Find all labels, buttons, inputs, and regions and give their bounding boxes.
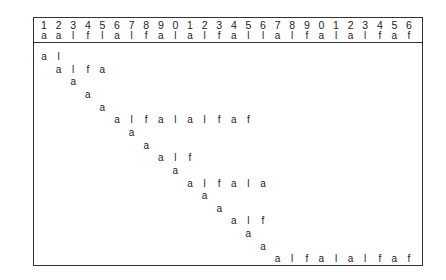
row-char: l — [126, 114, 138, 126]
row-char: a — [96, 64, 108, 76]
row-char: a — [169, 165, 181, 177]
row-char: f — [213, 114, 225, 126]
row-char: a — [272, 253, 284, 265]
row-char: a — [199, 190, 211, 202]
row-char: a — [228, 114, 240, 126]
alignment-table-frame — [33, 17, 423, 266]
row-char: f — [257, 215, 269, 227]
row-char: l — [286, 253, 298, 265]
row-char: a — [257, 178, 269, 190]
header-letter: l — [286, 30, 298, 42]
row-char: a — [155, 114, 167, 126]
header-letter: f — [82, 30, 94, 42]
row-char: l — [199, 178, 211, 190]
row-char: f — [374, 253, 386, 265]
row-char: a — [388, 253, 400, 265]
row-char: a — [96, 102, 108, 114]
header-letter: l — [359, 30, 371, 42]
header-letter: a — [228, 30, 240, 42]
row-char: a — [38, 51, 50, 63]
header-letter: f — [213, 30, 225, 42]
header-letter: a — [388, 30, 400, 42]
row-char: a — [213, 203, 225, 215]
row-char: a — [257, 241, 269, 253]
row-char: l — [242, 215, 254, 227]
header-letter: l — [96, 30, 108, 42]
header-letter: f — [301, 30, 313, 42]
header-divider — [33, 42, 423, 43]
header-letter: l — [242, 30, 254, 42]
row-char: a — [184, 114, 196, 126]
header-letter: l — [67, 30, 79, 42]
header-letter: f — [374, 30, 386, 42]
row-char: l — [359, 253, 371, 265]
row-char: a — [111, 114, 123, 126]
row-char: f — [82, 64, 94, 76]
row-char: f — [184, 152, 196, 164]
header-letter: f — [403, 30, 415, 42]
row-char: a — [228, 215, 240, 227]
header-letter: l — [257, 30, 269, 42]
row-char: a — [53, 64, 65, 76]
row-char: a — [345, 253, 357, 265]
row-char: f — [403, 253, 415, 265]
header-letter: f — [140, 30, 152, 42]
row-char: l — [199, 114, 211, 126]
row-char: a — [126, 127, 138, 139]
row-char: l — [53, 51, 65, 63]
row-char: l — [330, 253, 342, 265]
row-char: l — [169, 152, 181, 164]
row-char: a — [242, 228, 254, 240]
row-char: a — [228, 178, 240, 190]
row-char: f — [301, 253, 313, 265]
header-letter: a — [345, 30, 357, 42]
row-char: f — [140, 114, 152, 126]
row-char: a — [67, 76, 79, 88]
header-letter: a — [272, 30, 284, 42]
header-letter: a — [315, 30, 327, 42]
header-letter: a — [38, 30, 50, 42]
header-letter: a — [184, 30, 196, 42]
row-char: a — [82, 89, 94, 101]
row-char: a — [315, 253, 327, 265]
header-letter: l — [199, 30, 211, 42]
header-letter: l — [330, 30, 342, 42]
header-letter: a — [155, 30, 167, 42]
row-char: l — [169, 114, 181, 126]
row-char: f — [242, 114, 254, 126]
row-char: a — [184, 178, 196, 190]
header-letter: l — [169, 30, 181, 42]
row-char: f — [213, 178, 225, 190]
row-char: l — [67, 64, 79, 76]
header-letter: a — [111, 30, 123, 42]
row-char: a — [155, 152, 167, 164]
row-char: l — [242, 178, 254, 190]
header-letter: l — [126, 30, 138, 42]
header-letter: a — [53, 30, 65, 42]
row-char: a — [140, 140, 152, 152]
